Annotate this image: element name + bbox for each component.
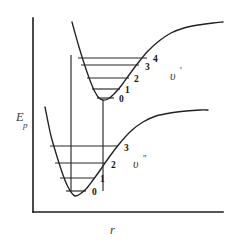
vibrational-level-label: 3 bbox=[145, 62, 150, 72]
vibrational-level-label: 1 bbox=[100, 174, 105, 184]
vibrational-levels-group bbox=[50, 58, 147, 191]
diagram-canvas: E p r 012340123 υ ' υ '' bbox=[0, 0, 233, 242]
electronic-transitions-group bbox=[71, 55, 103, 191]
vibrational-level-labels-group: 012340123 bbox=[92, 54, 158, 197]
axes-group bbox=[33, 18, 223, 212]
potential-energy-diagram: E p r 012340123 υ ' υ '' bbox=[0, 0, 233, 242]
vibrational-level-label: 0 bbox=[92, 187, 97, 197]
upper-state-label: υ bbox=[170, 69, 176, 83]
y-axis-label-subscript: p bbox=[22, 120, 28, 130]
vibrational-level-label: 2 bbox=[111, 160, 116, 170]
vibrational-level-label: 0 bbox=[119, 94, 124, 104]
upper-state-potential bbox=[72, 22, 223, 100]
x-axis-label: r bbox=[110, 223, 115, 237]
vibrational-level-label: 3 bbox=[124, 143, 129, 153]
vibrational-level-label: 4 bbox=[153, 54, 158, 64]
lower-state-prime: '' bbox=[143, 153, 147, 164]
lower-state-label: υ bbox=[133, 157, 139, 171]
state-labels-group: υ ' υ '' bbox=[133, 65, 182, 170]
vibrational-level-label: 1 bbox=[125, 85, 130, 95]
upper-state-prime: ' bbox=[180, 65, 182, 76]
vibrational-level-label: 2 bbox=[134, 74, 139, 84]
